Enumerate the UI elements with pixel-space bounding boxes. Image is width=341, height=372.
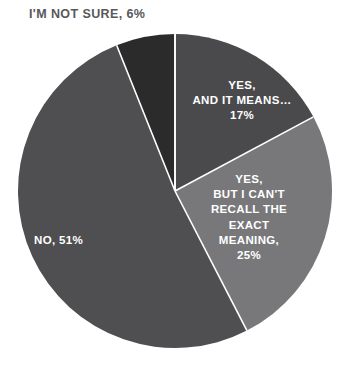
slice-label-no: NO, 51% xyxy=(34,233,122,248)
pie-chart: I'M NOT SURE, 6% YES, AND IT MEANS… 17% … xyxy=(0,0,341,372)
slice-label-yes-and-it-means: YES, AND IT MEANS… 17% xyxy=(186,78,298,124)
slice-label-yes-but-i-cant-recall: YES, BUT I CAN'T RECALL THE EXACT MEANIN… xyxy=(196,172,302,263)
slice-label-i-m-not-sure: I'M NOT SURE, 6% xyxy=(29,8,145,22)
